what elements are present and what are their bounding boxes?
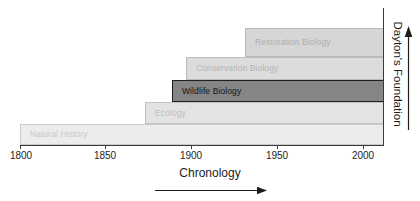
bar-wildlife-biology: Wildlife Biology	[172, 80, 384, 102]
x-axis-title: Chronology	[0, 166, 420, 180]
chart-figure: Restoration Biology Conservation Biology…	[0, 0, 420, 201]
x-tick-label-1850: 1850	[94, 150, 116, 161]
bar-label-ecology: Ecology	[146, 109, 186, 118]
chronology-arrow-icon	[155, 186, 267, 195]
bar-label-restoration-biology: Restoration Biology	[246, 38, 331, 47]
bar-label-wildlife-biology: Wildlife Biology	[173, 87, 241, 96]
x-tick-label-2000: 2000	[352, 150, 374, 161]
x-tick-label-1900: 1900	[180, 150, 202, 161]
bar-restoration-biology: Restoration Biology	[245, 28, 384, 57]
y-axis-line	[383, 8, 384, 146]
x-tick-2000	[363, 145, 364, 149]
x-tick-label-1950: 1950	[266, 150, 288, 161]
foundation-arrow-icon	[404, 26, 413, 130]
bar-conservation-biology: Conservation Biology	[186, 57, 384, 80]
x-tick-label-1800: 1800	[10, 150, 32, 161]
bar-ecology: Ecology	[145, 102, 384, 124]
plot-area: Restoration Biology Conservation Biology…	[0, 0, 420, 201]
x-tick-1850	[105, 145, 106, 149]
x-tick-1800	[20, 145, 21, 149]
x-tick-1900	[191, 145, 192, 149]
y-axis-title: Dayton's Foundation	[392, 21, 404, 126]
bar-label-conservation-biology: Conservation Biology	[187, 64, 278, 73]
x-tick-1950	[277, 145, 278, 149]
bar-natural-history: Natural History	[20, 124, 384, 145]
bar-label-natural-history: Natural History	[21, 130, 88, 139]
x-axis-line	[20, 145, 384, 146]
